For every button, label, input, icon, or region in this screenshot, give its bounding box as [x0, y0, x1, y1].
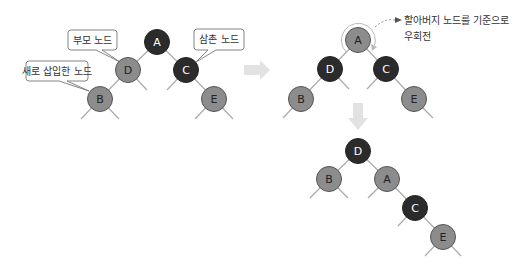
node-d-label: D [354, 145, 362, 158]
node-c: C [374, 57, 399, 82]
down-arrow-icon [348, 103, 368, 130]
node-e-label: E [411, 93, 418, 106]
node-a-label: A [383, 173, 391, 186]
node-d-label: D [124, 64, 132, 77]
node-a-label: A [153, 36, 161, 49]
node-e-label: E [440, 231, 447, 244]
node-b: B [88, 87, 113, 112]
node-e: E [402, 87, 427, 112]
node-c: C [174, 58, 199, 83]
node-e: E [431, 225, 456, 250]
node-d: D [318, 57, 343, 82]
node-a-label: A [354, 34, 362, 47]
node-c: C [403, 196, 428, 221]
node-c-label: C [411, 202, 419, 215]
node-d: D [346, 139, 371, 164]
node-e-label: E [211, 93, 218, 106]
callout-parent-node: 부모 노드 [68, 30, 120, 62]
callout-parent-node-text: 부모 노드 [73, 35, 112, 46]
callout-uncle-node: 삼촌 노드 [194, 29, 244, 62]
callout-new-node: 새로 삽입한 노드 [22, 61, 91, 91]
right-arrow-icon [244, 60, 270, 80]
node-b-label: B [325, 173, 333, 186]
node-b-label: B [96, 93, 104, 106]
node-b: B [289, 87, 314, 112]
tree-rotated-nodes: D B A C E [317, 139, 456, 250]
callout-new-node-text: 새로 삽입한 노드 [22, 65, 91, 77]
node-d-label: D [326, 63, 334, 76]
node-a: A [145, 30, 170, 55]
node-c-label: C [382, 63, 390, 76]
node-d: D [116, 58, 141, 83]
node-a: A [375, 167, 400, 192]
callout-uncle-node-text: 삼촌 노드 [199, 34, 238, 45]
node-e: E [202, 87, 227, 112]
node-a: A [346, 28, 371, 53]
rotation-note-line1: 할아버지 노드를 기준으로 [404, 15, 509, 26]
node-b-label: B [297, 93, 305, 106]
node-c-label: C [182, 64, 190, 77]
rotation-note-line2: 우회전 [404, 31, 431, 42]
red-black-tree-rotation-diagram: 부모 노드 새로 삽입한 노드 삼촌 노드 A D C B E [0, 0, 522, 273]
node-b: B [317, 167, 342, 192]
